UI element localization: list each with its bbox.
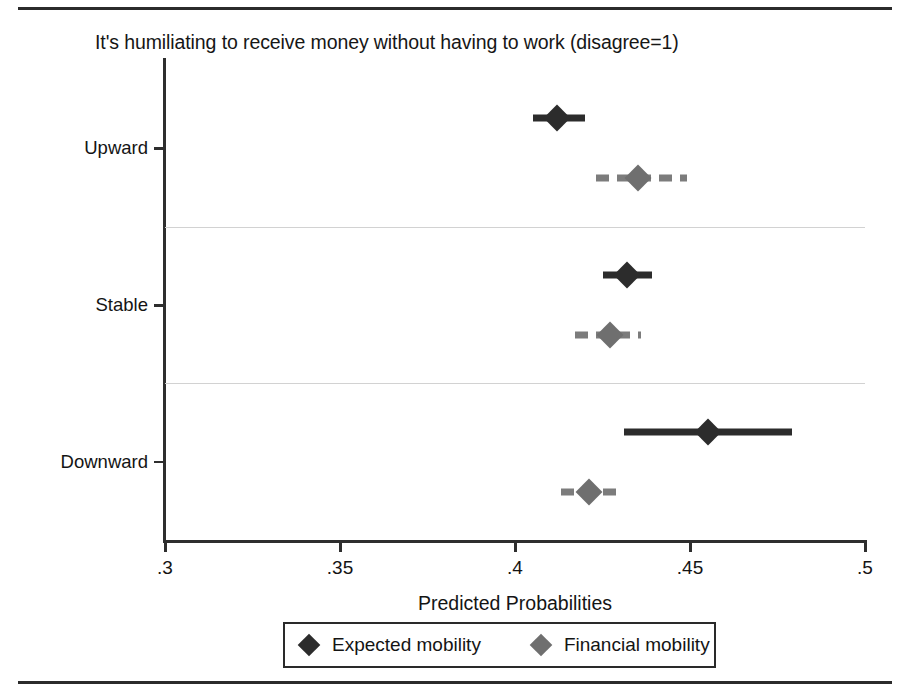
legend-label: Expected mobility [332, 634, 481, 656]
top-divider-rule [18, 7, 892, 10]
x-axis-tick [514, 540, 517, 552]
bottom-divider-rule [18, 681, 892, 684]
y-axis-label-stable: Stable [96, 294, 148, 316]
point-marker-diamond [575, 478, 602, 505]
x-axis-title: Predicted Probabilities [165, 592, 865, 615]
legend-item-financial-mobility: Financial mobility [533, 634, 710, 656]
x-axis-tick-label: .3 [157, 557, 173, 579]
gridline [165, 227, 865, 228]
y-axis-label-downward: Downward [61, 451, 148, 473]
x-axis-tick-label: .5 [857, 557, 873, 579]
y-axis-tick [154, 461, 165, 464]
point-marker-diamond [596, 322, 623, 349]
point-marker-diamond [544, 105, 571, 132]
x-axis-tick [689, 540, 692, 552]
gridline [165, 383, 865, 384]
x-axis-tick-label: .35 [327, 557, 353, 579]
y-axis-label-upward: Upward [84, 137, 148, 159]
y-axis-line [163, 58, 166, 540]
x-axis-tick-label: .4 [507, 557, 523, 579]
legend-item-expected-mobility: Expected mobility [301, 634, 481, 656]
x-axis-tick [864, 540, 867, 552]
plot-area: UpwardStableDownward .3.35.4.45.5 Predic… [165, 70, 865, 540]
diamond-marker-icon [298, 634, 321, 657]
point-marker-diamond [624, 165, 651, 192]
x-axis-tick [339, 540, 342, 552]
figure-canvas: It's humiliating to receive money withou… [0, 0, 910, 695]
legend-label: Financial mobility [564, 634, 710, 656]
y-axis-tick [154, 147, 165, 150]
chart-legend: Expected mobility Financial mobility [283, 622, 716, 668]
x-axis-tick [164, 540, 167, 552]
point-marker-diamond [694, 418, 721, 445]
chart-title: It's humiliating to receive money withou… [95, 31, 679, 54]
point-marker-diamond [614, 262, 641, 289]
diamond-marker-icon [530, 634, 553, 657]
y-axis-tick [154, 304, 165, 307]
x-axis-tick-label: .45 [677, 557, 703, 579]
